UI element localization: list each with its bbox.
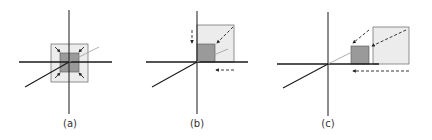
outer-square: [373, 27, 409, 64]
dashed-arrow-icon: [353, 30, 369, 43]
inner-square: [351, 46, 369, 64]
diagonal-axis-front: [283, 64, 328, 88]
diagonal-axis-front: [152, 62, 197, 87]
panel-c: [277, 12, 409, 116]
panel-b: [146, 11, 248, 114]
inner-square: [197, 44, 215, 62]
panel-b-label: (b): [182, 118, 212, 129]
panel-c-label: (c): [313, 118, 343, 129]
panel-a-label: (a): [55, 118, 85, 129]
panel-a: [19, 10, 112, 114]
